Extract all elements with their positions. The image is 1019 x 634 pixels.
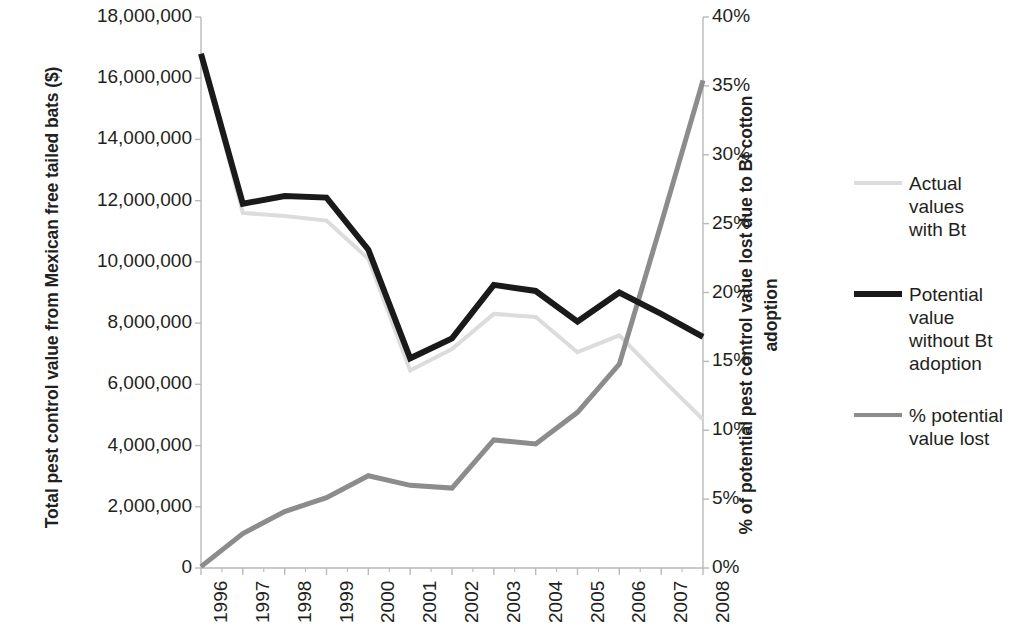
series-line-1	[201, 54, 703, 420]
legend-swatch-icon	[854, 291, 902, 297]
legend-item[interactable]: Actual values with Bt	[854, 172, 1019, 241]
legend-swatch-icon	[854, 413, 902, 417]
legend-label: Potential value without Bt adoption	[909, 283, 1019, 375]
series-line-2	[201, 54, 703, 359]
legend-label: % potential value lost	[909, 404, 1003, 450]
chart-container: Total pest control value from Mexican fr…	[0, 0, 1019, 634]
legend-swatch-icon	[854, 181, 902, 185]
legend-item[interactable]: Potential value without Bt adoption	[854, 283, 1019, 375]
legend-item[interactable]: % potential value lost	[854, 404, 1003, 450]
legend-label: Actual values with Bt	[909, 172, 1019, 241]
series-line-3	[201, 80, 703, 566]
